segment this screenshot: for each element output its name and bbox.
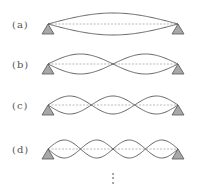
left-support-icon (42, 149, 54, 159)
wave-row-c (42, 96, 184, 115)
right-support-icon (172, 105, 184, 115)
standing-wave-drawing: ⋮ (0, 0, 197, 188)
wave-envelope-lower (48, 24, 178, 35)
wave-row-d (42, 140, 184, 159)
left-support-icon (42, 64, 54, 74)
right-support-icon (172, 149, 184, 159)
left-support-icon (42, 105, 54, 115)
continuation-ellipsis: ⋮ (107, 171, 119, 185)
wave-row-a (42, 13, 184, 35)
right-support-icon (172, 64, 184, 74)
wave-row-b (42, 54, 184, 74)
wave-envelope-upper (48, 13, 178, 24)
